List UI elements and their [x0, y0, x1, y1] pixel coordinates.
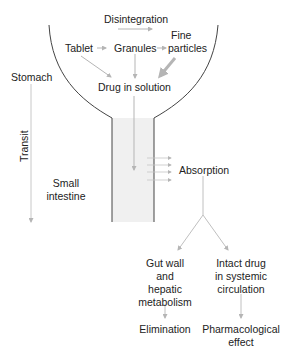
label-small-intestine-1: Small — [46, 177, 86, 190]
label-disintegration: Disintegration — [104, 13, 168, 26]
label-intact-drug-2: in systemic — [206, 270, 276, 283]
label-absorption: Absorption — [179, 164, 229, 177]
label-stomach: Stomach — [11, 71, 52, 84]
label-gut-wall-3: hepatic — [135, 283, 195, 296]
label-tablet: Tablet — [65, 42, 93, 55]
label-pharmacological-1: Pharmacological — [198, 323, 284, 336]
label-granules: Granules — [114, 42, 157, 55]
label-gut-wall-2: and — [135, 270, 195, 283]
label-gut-wall-4: metabolism — [135, 296, 195, 309]
small-intestine-tube-fill — [112, 118, 154, 222]
branch-left-arrow — [178, 215, 203, 250]
particles-to-solution-arrow — [160, 58, 175, 76]
label-intact-drug-1: Intact drug — [206, 257, 276, 270]
branch-right-arrow — [203, 215, 228, 250]
label-gut-wall-1: Gut wall — [135, 257, 195, 270]
stomach-outline-right — [154, 25, 218, 222]
label-drug-in-solution: Drug in solution — [98, 81, 171, 94]
label-fine-particles-2: particles — [168, 42, 207, 55]
label-elimination: Elimination — [135, 323, 195, 336]
label-small-intestine-2: intestine — [42, 190, 90, 203]
label-intact-drug-3: circulation — [206, 283, 276, 296]
tablet-to-solution-arrow — [81, 56, 111, 77]
label-fine-particles-1: Fine — [171, 29, 191, 42]
label-transit: Transit — [18, 126, 31, 166]
label-pharmacological-2: effect — [198, 336, 284, 349]
